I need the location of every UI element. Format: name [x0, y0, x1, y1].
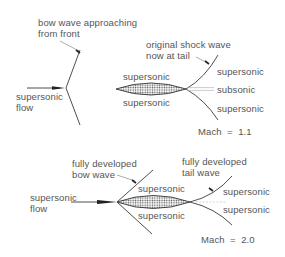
region-upper-bottom: supersonic [223, 186, 270, 197]
bow-wave-developed-label-2: bow wave [72, 169, 115, 180]
flow-label-top-1: supersonic [16, 91, 63, 102]
flow-label-top-2: flow [16, 102, 33, 113]
tail-wave-developed-label-2: tail wave [182, 167, 220, 178]
bow-wave-approaching [60, 41, 80, 125]
mach-label-top: Mach = 1.1 [198, 126, 252, 137]
region-wake-top: subsonic [217, 84, 255, 95]
body-above-label-top: supersonic [123, 71, 170, 82]
flow-arrow-top [27, 86, 65, 89]
region-lower-top: supersonic [217, 103, 264, 114]
flow-arrow-bottom [71, 200, 117, 204]
tail-shock-label-1: original shock wave [146, 39, 231, 50]
tail-shock-bottom [190, 176, 232, 225]
body-below-label-top: supersonic [123, 97, 170, 108]
region-upper-top: supersonic [217, 66, 264, 77]
airfoil-body-bottom [117, 196, 190, 209]
tail-shock-label-2: now at tail [146, 50, 190, 61]
tail-wave-developed-label-1: fully developed [182, 156, 247, 167]
mach-label-bottom: Mach = 2.0 [201, 234, 255, 245]
region-lower-bottom: supersonic [223, 204, 270, 215]
airfoil-body-top [116, 83, 186, 95]
bow-wave-developed-label-1: fully developed [72, 158, 137, 169]
tail-shock-top [186, 55, 218, 120]
body-below-label-bottom: supersonic [138, 210, 185, 221]
bow-wave-approaching-label-2: from front [38, 28, 80, 39]
bow-wave-approaching-label-1: bow wave approaching [38, 17, 137, 28]
flow-label-bottom-1: supersonic [30, 192, 77, 203]
body-above-label-bottom: supersonic [138, 183, 185, 194]
bow-wave-pointer [60, 41, 79, 51]
flow-label-bottom-2: flow [30, 203, 47, 214]
